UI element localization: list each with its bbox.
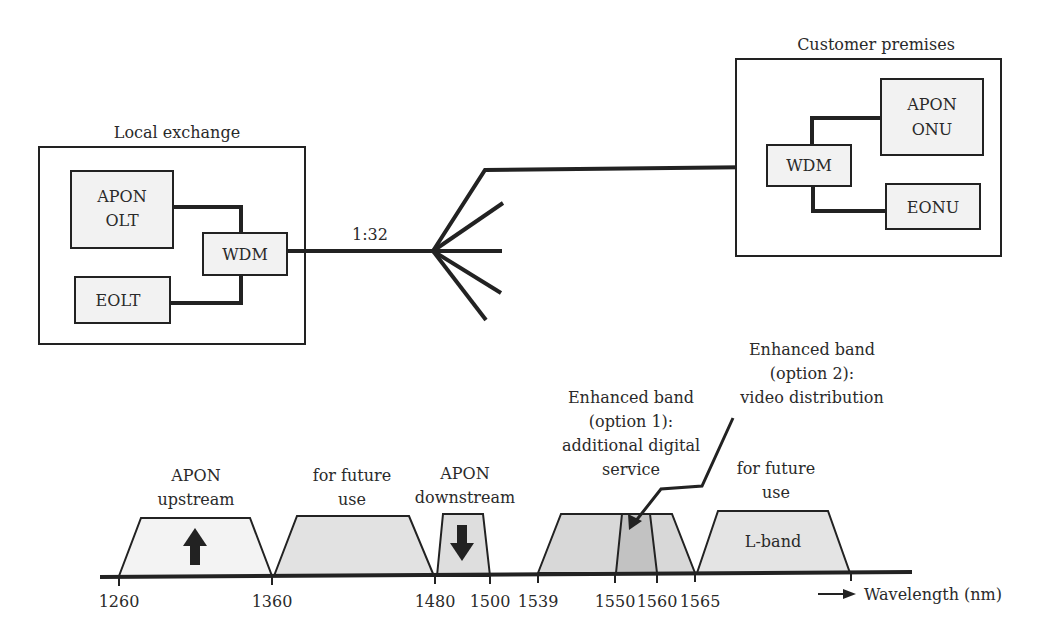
- apon-olt-box: [71, 171, 173, 248]
- tick-1565: 1565: [680, 592, 721, 611]
- split-ratio-label: 1:32: [352, 225, 388, 244]
- enh2-label-2: (option 2):: [770, 364, 855, 383]
- wavelength-spectrum: 1260 1360 1480 1500 1539 1550 1560 1565 …: [99, 340, 1002, 611]
- tick-1560: 1560: [637, 592, 678, 611]
- tick-1500: 1500: [470, 592, 511, 611]
- future1-label-1: for future: [313, 466, 391, 485]
- eolt-label: EOLT: [96, 291, 141, 310]
- splitter: 1:32: [287, 167, 769, 320]
- drop-fiber-2: [433, 203, 503, 251]
- tick-1539: 1539: [518, 592, 559, 611]
- eonu-label: EONU: [907, 198, 959, 217]
- drop-fiber-4: [433, 251, 501, 293]
- apon-olt-label-2: OLT: [105, 211, 138, 230]
- tick-1550: 1550: [595, 592, 636, 611]
- l-band-label: L-band: [745, 532, 801, 551]
- customer-premises-title: Customer premises: [797, 35, 955, 54]
- axis-label: Wavelength (nm): [864, 585, 1002, 604]
- upstream-label-1: APON: [170, 466, 220, 485]
- future2-label-1: for future: [737, 459, 815, 478]
- pon-diagram: Local exchange APON OLT EOLT WDM 1:32 Cu…: [0, 0, 1052, 642]
- enh2-label-1: Enhanced band: [749, 340, 875, 359]
- tick-1260: 1260: [99, 592, 140, 611]
- enh1-label-2: (option 1):: [589, 412, 674, 431]
- enh1-label-3: additional digital: [562, 436, 700, 455]
- future2-label-2: use: [762, 483, 790, 502]
- drop-fiber-customer: [433, 167, 769, 251]
- wdm-customer-label: WDM: [786, 156, 832, 175]
- apon-onu-box: [881, 79, 983, 155]
- enh1-label-1: Enhanced band: [568, 388, 694, 407]
- apon-onu-label-2: ONU: [912, 120, 953, 139]
- axis-arrow-icon: [843, 589, 856, 599]
- downstream-label-2: downstream: [415, 488, 515, 507]
- apon-olt-label-1: APON: [96, 187, 146, 206]
- band-future-use-1: [274, 516, 434, 576]
- apon-onu-label-1: APON: [906, 95, 956, 114]
- customer-premises: Customer premises APON ONU WDM EONU: [736, 35, 1001, 256]
- enh1-label-4: service: [602, 460, 660, 479]
- drop-fiber-5: [433, 251, 486, 320]
- upstream-label-2: upstream: [157, 490, 234, 509]
- local-exchange-title: Local exchange: [114, 123, 240, 142]
- local-exchange: Local exchange APON OLT EOLT WDM: [39, 123, 305, 344]
- future1-label-2: use: [338, 490, 366, 509]
- tick-1360: 1360: [252, 592, 293, 611]
- wdm-exchange-label: WDM: [222, 245, 268, 264]
- enh2-label-3: video distribution: [739, 388, 883, 407]
- downstream-label-1: APON: [439, 464, 489, 483]
- tick-1480: 1480: [415, 592, 456, 611]
